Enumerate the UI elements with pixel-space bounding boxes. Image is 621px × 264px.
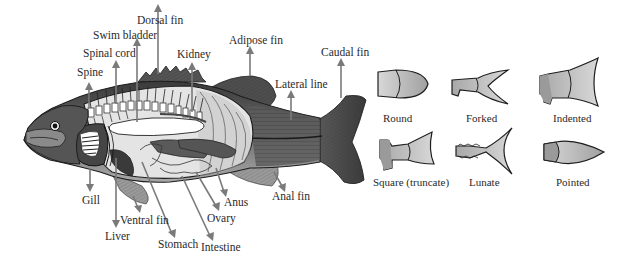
caudal-fin-shapes: Round Forked Indented Square (truncate) … xyxy=(373,58,604,189)
label-anus: Anus xyxy=(224,196,249,208)
label-spinal-cord: Spinal cord xyxy=(83,47,136,60)
label-indented: Indented xyxy=(553,112,592,124)
label-square-truncate: Square (truncate) xyxy=(373,176,449,189)
label-lateral-line: Lateral line xyxy=(275,78,328,90)
label-liver: Liver xyxy=(105,230,130,242)
label-swim-bladder: Swim bladder xyxy=(93,29,157,41)
label-pointed: Pointed xyxy=(556,176,590,188)
label-kidney: Kidney xyxy=(177,48,211,61)
label-intestine: Intestine xyxy=(201,241,241,253)
label-dorsal-fin: Dorsal fin xyxy=(137,14,184,26)
label-spine: Spine xyxy=(77,66,103,79)
fin-shape-lunate: Lunate xyxy=(456,128,512,188)
label-forked: Forked xyxy=(466,112,498,124)
label-gill: Gill xyxy=(82,194,100,206)
fin-shape-indented: Indented xyxy=(540,58,598,124)
label-caudal-fin: Caudal fin xyxy=(321,46,369,58)
label-round: Round xyxy=(383,112,413,124)
label-lunate: Lunate xyxy=(469,176,500,188)
fin-shape-square: Square (truncate) xyxy=(373,132,449,189)
label-ovary: Ovary xyxy=(207,212,236,225)
label-ventral-fin: Ventral fin xyxy=(120,214,169,226)
fin-shape-pointed: Pointed xyxy=(544,141,604,188)
label-adipose-fin: Adipose fin xyxy=(229,34,283,47)
label-anal-fin: Anal fin xyxy=(272,190,310,202)
label-stomach: Stomach xyxy=(158,238,198,250)
fin-shape-forked: Forked xyxy=(452,70,508,124)
fin-shape-round: Round xyxy=(378,70,428,124)
fish-anatomy-diagram: Dorsal fin Swim bladder Spinal cord Spin… xyxy=(0,0,621,264)
